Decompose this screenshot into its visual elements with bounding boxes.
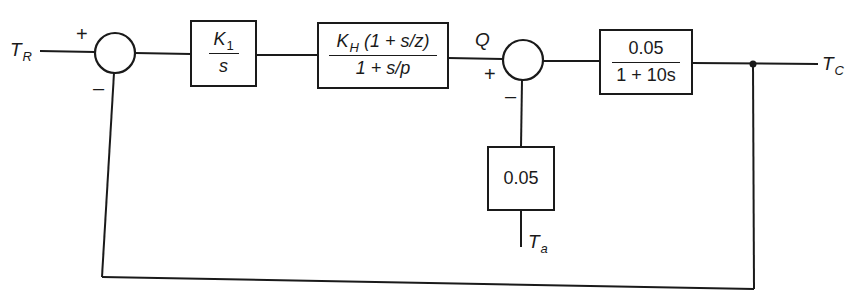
disturbance-label: Ta [528, 232, 548, 251]
compensator-transfer-function: KH (1 + s/z) 1 + s/p [318, 23, 448, 88]
compensator-fraction-bar [329, 55, 437, 56]
integrator-transfer-function: K1 s [191, 21, 256, 86]
sum2-minus-sign: – [505, 86, 516, 106]
output-label: TC [822, 54, 844, 73]
sum1-minus-sign: – [93, 78, 104, 98]
disturbance-gain-value: 0.05 [488, 147, 554, 210]
reference-subscript: R [23, 49, 32, 64]
integrator-gain-subscript: 1 [226, 38, 233, 53]
pickoff-point [750, 61, 757, 68]
sum1-plus-sign: + [76, 24, 88, 44]
wire-feedback-bottom [102, 277, 754, 289]
reference-label: TR [10, 40, 32, 59]
integrator-fraction-bar [209, 53, 239, 54]
wire-input [40, 51, 95, 52]
disturbance-symbol: T [528, 231, 540, 252]
summing-junction-1 [95, 33, 135, 73]
compensator-zero-term: (1 + s/z) [364, 31, 430, 51]
plant-fraction-bar [612, 62, 680, 63]
compensator-gain-symbol: K [337, 31, 349, 51]
wire-compensator-to-sum2 [448, 58, 503, 59]
compensator-denominator: 1 + s/p [356, 59, 411, 79]
integrator-gain-symbol: K [213, 29, 225, 49]
wire-sum2-to-disturbance-gain [521, 80, 522, 147]
integrator-denominator: s [219, 57, 228, 77]
sum2-plus-sign: + [484, 64, 496, 84]
compensator-gain-subscript: H [350, 40, 359, 55]
summing-junction-2 [503, 40, 543, 80]
plant-denominator: 1 + 10s [616, 66, 676, 86]
disturbance-subscript: a [541, 241, 548, 256]
integrator-numerator: K1 [213, 30, 233, 50]
output-symbol: T [822, 53, 834, 74]
compensator-numerator: KH (1 + s/z) [337, 32, 430, 52]
plant-numerator: 0.05 [628, 39, 663, 59]
wire-feedback-up [102, 73, 114, 277]
reference-symbol: T [10, 39, 22, 60]
wire-sum1-to-integrator [135, 53, 191, 54]
output-subscript: C [835, 63, 844, 78]
intermediate-signal-label: Q [475, 30, 490, 49]
wire-feedback-down [753, 64, 754, 289]
plant-transfer-function: 0.05 1 + 10s [600, 30, 692, 94]
